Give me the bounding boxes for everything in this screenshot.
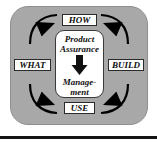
label-use: USE xyxy=(64,102,95,114)
center-line-assurance: Assurance xyxy=(60,44,99,54)
center-line-ment: ment xyxy=(70,87,89,97)
center-line-product: Product xyxy=(65,34,95,44)
center-line-manage: Manage- xyxy=(63,77,97,87)
bottom-divider xyxy=(0,136,157,139)
center-box: Product Assurance Manage- ment xyxy=(55,30,104,98)
product-assurance-management-figure: Product Assurance Manage- ment HOW WHAT … xyxy=(0,0,157,144)
label-how: HOW xyxy=(62,14,97,26)
label-what: WHAT xyxy=(14,59,51,71)
label-build: BUILD xyxy=(108,59,144,71)
down-arrow-icon xyxy=(71,55,88,75)
